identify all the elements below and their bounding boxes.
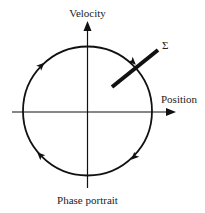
position-axis-arrowhead (166, 108, 176, 116)
velocity-axis-arrowhead (84, 21, 92, 31)
section-sigma-label: Σ (162, 39, 168, 51)
position-axis-label: Position (161, 93, 198, 105)
phase-portrait-diagram: Velocity Position Σ Phase portrait (0, 0, 205, 213)
velocity-axis-label: Velocity (69, 7, 106, 19)
diagram-title: Phase portrait (57, 194, 118, 206)
orbit-arrow-lower-right (129, 152, 140, 163)
